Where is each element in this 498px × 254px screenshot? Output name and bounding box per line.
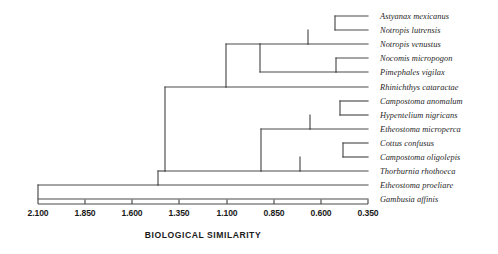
leaf-label-3: Nocomis micropogon [379, 54, 452, 63]
leaf-label-5: Rhinichthys cataractae [379, 83, 459, 92]
tick-label-4: 1.100 [216, 208, 237, 218]
leaf-label-4: Pimephales vigilax [379, 68, 445, 77]
leaf-label-10: Campostoma oligolepis [380, 153, 460, 162]
tick-label-5: 0.850 [263, 208, 284, 218]
tick-label-3: 1.350 [168, 208, 189, 218]
tick-label-2: 1.600 [121, 208, 142, 218]
leaf-label-13: Gambusia affinis [380, 195, 438, 204]
leaf-label-6: Campostoma anomalum [380, 97, 463, 106]
leaf-label-2: Notropis venustus [379, 40, 441, 49]
tick-label-0: 2.100 [27, 208, 48, 218]
leaf-label-0: Astyanax mexicanus [379, 12, 449, 21]
leaf-label-12: Etheostoma proeliare [379, 181, 453, 190]
tick-label-1: 1.850 [74, 208, 95, 218]
leaf-label-11: Thorburnia rhothoeca [380, 167, 456, 176]
dendrogram-figure: Astyanax mexicanusNotropis lutrensisNotr… [0, 0, 498, 254]
tick-label-7: 0.350 [357, 208, 378, 218]
leaf-label-7: Hypentelium nigricans [379, 111, 458, 120]
tick-label-6: 0.600 [310, 208, 331, 218]
leaf-label-9: Cottus confusus [380, 139, 434, 148]
leaf-label-1: Notropis lutrensis [379, 26, 441, 35]
leaf-label-8: Etheostoma microperca [379, 125, 461, 134]
axis-title: BIOLOGICAL SIMILARITY [145, 230, 261, 240]
